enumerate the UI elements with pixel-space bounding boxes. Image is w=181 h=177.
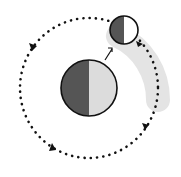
pointer-arrow-icon xyxy=(105,48,112,60)
moon xyxy=(110,16,138,44)
orbit-diagram xyxy=(0,0,181,177)
diagram-canvas xyxy=(0,0,181,177)
planet xyxy=(61,60,117,116)
